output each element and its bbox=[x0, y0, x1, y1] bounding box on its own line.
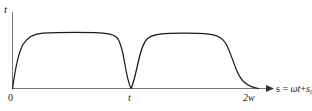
y-axis-label: t bbox=[4, 4, 7, 15]
x-axis-arrow-icon bbox=[266, 85, 274, 92]
x-axis-label: s = ωt+s0 bbox=[276, 84, 312, 96]
plot-canvas bbox=[0, 0, 312, 111]
x-tick-label-0: 0 bbox=[8, 93, 13, 103]
pulse-train-curve bbox=[13, 32, 259, 88]
x-label-prefix: s = bbox=[276, 83, 291, 94]
x-tick-label-2w: 2w bbox=[243, 93, 255, 103]
physics-plot-figure: t s = ωt+s0 0 t 2w bbox=[0, 0, 312, 111]
x-label-omega: ω bbox=[291, 83, 298, 94]
x-tick-label-t: t bbox=[128, 93, 131, 103]
x-label-subscript: 0 bbox=[310, 88, 312, 96]
